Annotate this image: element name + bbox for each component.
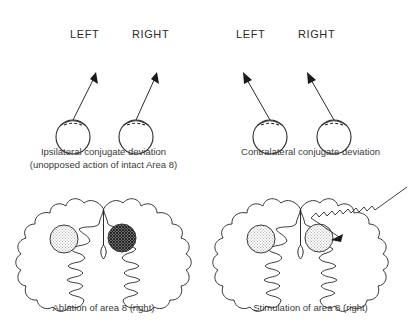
- brain-outline-ablation: [16, 199, 104, 312]
- lesion-left-hemisphere-stimulation: [247, 225, 275, 253]
- gaze-arrow-right-eye: [136, 72, 159, 120]
- caption-ipsilateral-line1: Ipsilateral conjugate deviation: [0, 146, 207, 159]
- brain-outline-stimulation-left: [213, 199, 301, 312]
- panel-ablation: Ablation of area 8 (right): [0, 185, 207, 333]
- lesion-left-hemisphere-ablation: [50, 225, 78, 253]
- gaze-arrow-left-eye: [73, 72, 98, 120]
- brain-outline-ablation-right: [104, 199, 192, 312]
- lesion-right-hemisphere-stimulation: [305, 224, 333, 252]
- caption-contralateral: Contralateral conjugate deviation: [207, 146, 414, 159]
- caption-stimulation: Stimulation of area 8 (right): [207, 302, 414, 315]
- caption-ipsilateral-line2: (unopposed action of intact Area 8): [0, 159, 207, 172]
- gaze-arrow-right-eye: [307, 72, 334, 120]
- caption-contralateral-line1: Contralateral conjugate deviation: [207, 146, 414, 159]
- caption-stimulation-line1: Stimulation of area 8 (right): [207, 302, 414, 315]
- panel-ipsilateral-deviation: LEFT RIGHT: [0, 18, 207, 183]
- figure-canvas: LEFT RIGHT: [0, 0, 414, 333]
- lesion-right-hemisphere-ablation: [108, 224, 136, 252]
- panel-stimulation: Stimulation of area 8 (right): [207, 185, 414, 333]
- panel-contralateral-deviation: LEFT RIGHT: [207, 18, 414, 183]
- gaze-arrow-left-eye: [243, 72, 270, 120]
- caption-ablation-line1: Ablation of area 8 (right): [0, 302, 207, 315]
- caption-ipsilateral: Ipsilateral conjugate deviation (unoppos…: [0, 146, 207, 171]
- caption-ablation: Ablation of area 8 (right): [0, 302, 207, 315]
